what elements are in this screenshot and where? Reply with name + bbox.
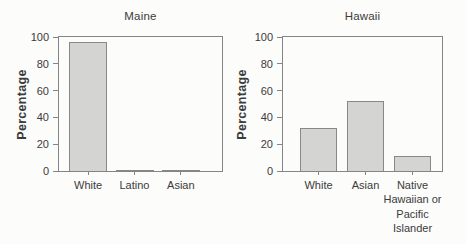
bar-native-hawaiian-or-pacific-islander (394, 156, 431, 171)
x-tick-mark (88, 171, 89, 175)
y-tick-label: 20 (243, 137, 273, 151)
two-panel-bar-figure: Maine Percentage 020406080100WhiteLatino… (0, 0, 466, 244)
y-tick-label: 80 (19, 57, 49, 71)
y-tick-label: 80 (243, 57, 273, 71)
x-tick-mark (134, 171, 135, 175)
x-category-label: Native Hawaiian or Pacific Islander (381, 178, 445, 235)
y-tick-mark (277, 171, 282, 172)
bar-asian (347, 101, 384, 171)
y-tick-mark (53, 144, 58, 145)
y-tick-label: 100 (243, 30, 273, 44)
x-tick-mark (412, 171, 413, 175)
y-tick-label: 0 (243, 164, 273, 178)
y-tick-mark (53, 117, 58, 118)
maine-plot-area: 020406080100WhiteLatinoAsian (58, 36, 223, 172)
y-tick-mark (53, 171, 58, 172)
y-tick-mark (277, 63, 282, 64)
bar-white (300, 128, 337, 171)
y-tick-label: 0 (19, 164, 49, 178)
hawaii-plot-area: 020406080100WhiteAsianNative Hawaiian or… (282, 36, 443, 172)
y-tick-label: 40 (243, 110, 273, 124)
y-tick-mark (53, 63, 58, 64)
y-tick-mark (277, 90, 282, 91)
y-tick-mark (277, 37, 282, 38)
y-tick-label: 100 (19, 30, 49, 44)
hawaii-chart-title: Hawaii (282, 10, 443, 22)
maine-chart-title: Maine (58, 10, 223, 22)
y-tick-label: 20 (19, 137, 49, 151)
y-tick-label: 60 (19, 84, 49, 98)
y-tick-mark (53, 90, 58, 91)
x-tick-mark (318, 171, 319, 175)
y-tick-mark (53, 37, 58, 38)
x-category-label: Asian (149, 178, 213, 192)
y-tick-label: 60 (243, 84, 273, 98)
y-tick-mark (277, 117, 282, 118)
x-tick-mark (365, 171, 366, 175)
bar-white (69, 42, 107, 171)
y-tick-mark (277, 144, 282, 145)
y-tick-label: 40 (19, 110, 49, 124)
x-tick-mark (180, 171, 181, 175)
